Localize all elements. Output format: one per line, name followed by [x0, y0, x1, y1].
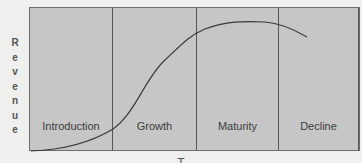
y-axis-letter: R	[11, 36, 18, 51]
y-axis-letter: u	[12, 109, 18, 124]
y-axis-letter: e	[12, 80, 18, 95]
y-axis-letter: e	[12, 123, 18, 138]
y-axis-letter: e	[12, 51, 18, 66]
x-axis-label: T	[0, 156, 362, 163]
y-axis-label: R e v e n u e	[8, 36, 22, 138]
life-cycle-chart: Introduction Growth Maturity Decline	[29, 7, 360, 151]
y-axis-letter: v	[12, 65, 18, 80]
y-axis-letter: n	[12, 94, 18, 109]
revenue-curve	[30, 8, 361, 152]
